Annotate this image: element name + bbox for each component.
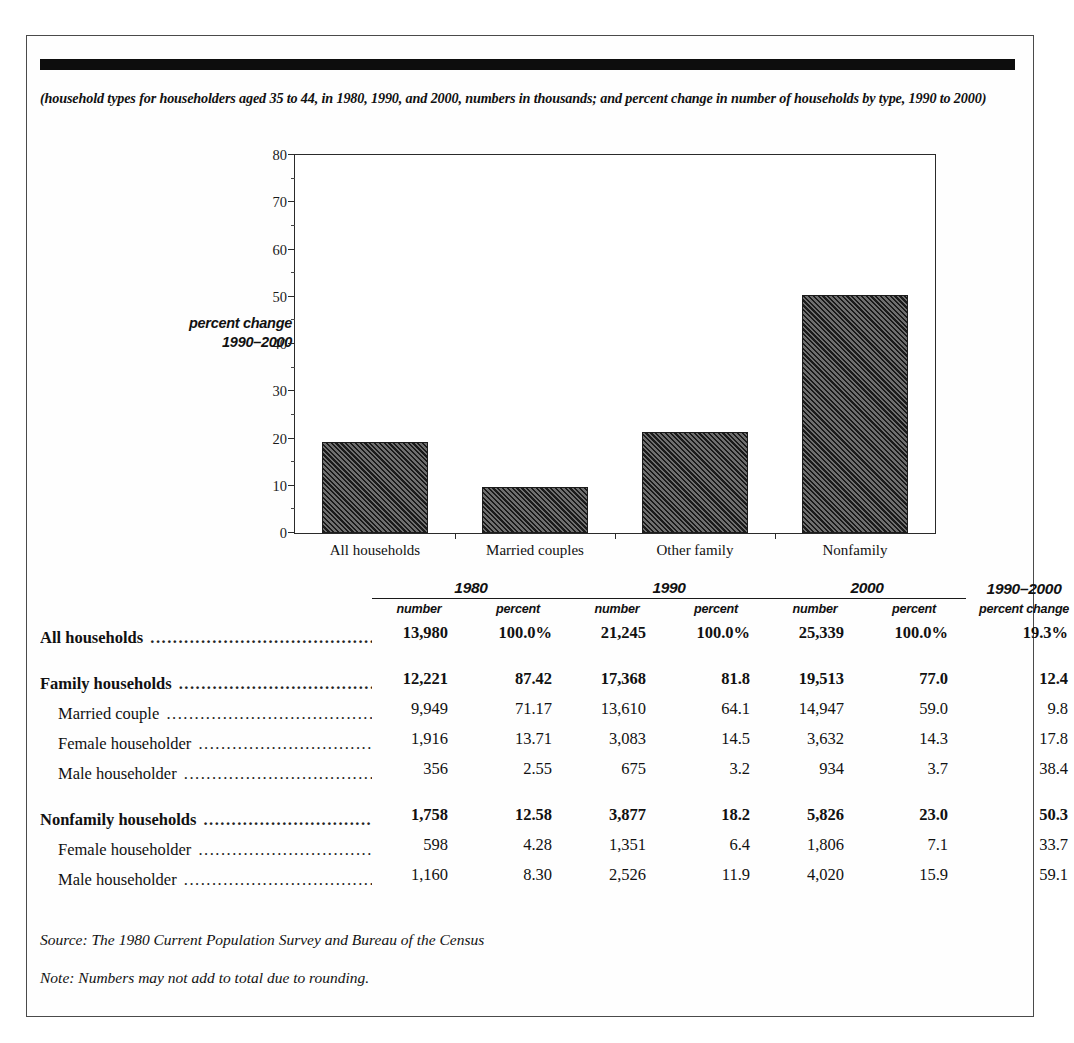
y-axis-tick-label: 10 [273,477,288,494]
y-axis-tick [288,249,295,250]
figure-subtitle: (household types for householders aged 3… [40,88,1000,108]
data-table-wrap: 1980 1990 2000 1990–2000 number percent … [40,579,1022,890]
cell-1980-number: 13,980 [372,618,466,648]
y-axis-tick [288,201,295,202]
header-change-years: 1990–2000 [966,579,1074,599]
cell-percent-change: 12.4 [966,664,1074,694]
y-axis-tick-label: 0 [280,525,287,542]
cell-1990-percent: 6.4 [664,830,768,860]
table-row: Male householder .......................… [40,860,1074,890]
y-axis-tick-label: 30 [273,383,288,400]
rounding-note: Note: Numbers may not add to total due t… [40,969,1000,987]
cell-1980-number: 9,949 [372,694,466,724]
cell-1980-percent: 87.42 [466,664,570,694]
y-axis-tick [288,296,295,297]
x-axis-tick [615,533,616,539]
cell-2000-number: 934 [768,754,862,784]
cell-1990-number: 3,877 [570,800,664,830]
y-axis-minor-tick [291,508,295,509]
header-1990-number: number [570,599,664,619]
cell-1980-percent: 100.0% [466,618,570,648]
cell-1990-number: 21,245 [570,618,664,648]
cell-1990-percent: 64.1 [664,694,768,724]
y-axis-tick-label: 80 [273,147,288,164]
table-row-label: Male householder .......................… [40,860,372,890]
top-heavy-rule [40,59,1015,70]
x-axis-tick [775,533,776,539]
cell-2000-percent: 100.0% [862,618,966,648]
y-axis-tick [288,390,295,391]
data-table: 1980 1990 2000 1990–2000 number percent … [40,579,1074,890]
header-1980-percent: percent [466,599,570,619]
cell-1980-percent: 71.17 [466,694,570,724]
y-axis-minor-tick [291,414,295,415]
y-axis-tick-label: 40 [273,336,288,353]
cell-1990-number: 2,526 [570,860,664,890]
y-axis-minor-tick [291,367,295,368]
cell-percent-change: 33.7 [966,830,1074,860]
cell-1980-percent: 2.55 [466,754,570,784]
header-row-years: 1980 1990 2000 1990–2000 [40,579,1074,599]
table-row: Female householder .....................… [40,724,1074,754]
figure-footnotes: Source: The 1980 Current Population Surv… [40,931,1000,1007]
y-axis-tick [288,532,295,533]
y-axis-tick-label: 60 [273,241,288,258]
cell-2000-percent: 14.3 [862,724,966,754]
table-row-label: Male householder .......................… [40,754,372,784]
cell-1980-number: 12,221 [372,664,466,694]
cell-2000-percent: 59.0 [862,694,966,724]
x-axis-tick [455,533,456,539]
cell-1980-percent: 8.30 [466,860,570,890]
chart-axis-title-line2: 1990–2000 [137,333,292,352]
cell-1990-percent: 100.0% [664,618,768,648]
cell-2000-percent: 77.0 [862,664,966,694]
y-axis-minor-tick [291,225,295,226]
header-change-label: percent change [966,599,1074,619]
cell-1990-number: 675 [570,754,664,784]
cell-1990-percent: 14.5 [664,724,768,754]
table-row: Family households ......................… [40,664,1074,694]
y-axis-tick [288,154,295,155]
cell-1980-number: 356 [372,754,466,784]
cell-2000-number: 1,806 [768,830,862,860]
table-row: Male householder .......................… [40,754,1074,784]
table-row: Married couple .........................… [40,694,1074,724]
cell-1980-number: 1,160 [372,860,466,890]
cell-1990-percent: 3.2 [664,754,768,784]
y-axis-tick-label: 50 [273,288,288,305]
chart-bar [642,432,748,533]
header-year-2000: 2000 [768,579,966,599]
cell-2000-number: 19,513 [768,664,862,694]
table-row-spacer [40,784,1074,800]
y-axis-minor-tick [291,319,295,320]
cell-1990-percent: 18.2 [664,800,768,830]
cell-percent-change: 38.4 [966,754,1074,784]
cell-percent-change: 17.8 [966,724,1074,754]
cell-1980-percent: 13.71 [466,724,570,754]
cell-percent-change: 59.1 [966,860,1074,890]
y-axis-minor-tick [291,461,295,462]
cell-2000-percent: 23.0 [862,800,966,830]
cell-1990-number: 17,368 [570,664,664,694]
x-axis-tick-label: All households [330,542,420,559]
header-2000-number: number [768,599,862,619]
y-axis-tick [288,485,295,486]
cell-2000-number: 14,947 [768,694,862,724]
y-axis-tick-label: 70 [273,194,288,211]
x-axis-tick-label: Nonfamily [823,542,888,559]
table-row-label: All households .........................… [40,618,372,648]
cell-1980-number: 1,916 [372,724,466,754]
chart-bar [322,442,428,533]
cell-1980-number: 1,758 [372,800,466,830]
table-row-label: Female householder .....................… [40,830,372,860]
chart-axis-title-line1: percent change [137,314,292,333]
cell-1990-percent: 81.8 [664,664,768,694]
table-row-label: Female householder .....................… [40,724,372,754]
cell-1990-number: 1,351 [570,830,664,860]
table-row-spacer [40,648,1074,664]
y-axis-tick [288,438,295,439]
bar-chart: percent change 1990–2000 010203040506070… [27,144,1035,574]
chart-axis-title: percent change 1990–2000 [137,314,292,352]
cell-1990-number: 3,083 [570,724,664,754]
header-year-1980: 1980 [372,579,570,599]
